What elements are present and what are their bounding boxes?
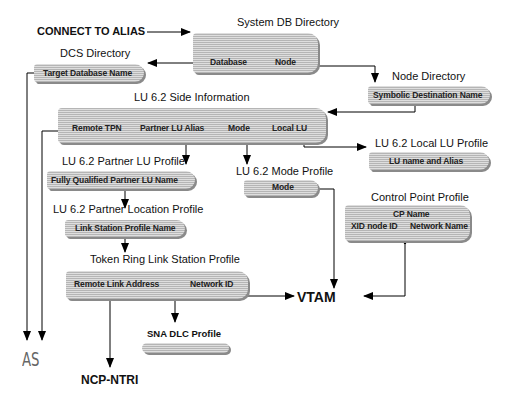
mode-field: Mode (228, 123, 250, 133)
database-field: Database (210, 57, 247, 67)
lu-name-and-alias-field: LU name and Alias (389, 156, 463, 166)
network-id-field: Network ID (190, 279, 233, 289)
system-db-directory-title: System DB Directory (237, 16, 339, 28)
connect-to-alias-label: CONNECT TO ALIAS (37, 25, 145, 37)
lu62-partner-location-profile-title: LU 6.2 Partner Location Profile (53, 203, 203, 215)
remote-tpn-field: Remote TPN (72, 123, 122, 133)
remote-link-address-field: Remote Link Address (74, 279, 159, 289)
lu62-side-information-box: Remote TPN Partner LU Alias Mode Local L… (58, 108, 326, 143)
mode-profile-mode-field: Mode (272, 182, 294, 192)
lu62-mode-profile-box: Mode (244, 180, 318, 196)
sna-dlc-profile-title: SNA DLC Profile (147, 328, 221, 339)
lu62-partner-lu-profile-box: Fully Qualified Partner LU Name (47, 171, 195, 189)
lu62-local-lu-profile-box: LU name and Alias (369, 152, 489, 170)
dcs-directory-box: Target Database Name (34, 64, 144, 82)
partner-lu-alias-field: Partner LU Alias (140, 123, 204, 133)
ncp-ntri-endpoint: NCP-NTRI (81, 373, 138, 387)
cp-name-field: CP Name (393, 209, 429, 219)
node-directory-box: Symbolic Destination Name (368, 86, 490, 104)
target-database-name-field: Target Database Name (43, 68, 132, 78)
node-field: Node (275, 57, 296, 67)
lu62-local-lu-profile-title: LU 6.2 Local LU Profile (375, 137, 488, 149)
dcs-directory-title: DCS Directory (60, 47, 130, 59)
system-db-directory-box: Database Node (193, 33, 318, 73)
xid-node-id-field: XID node ID (351, 221, 398, 231)
lu62-side-information-title: LU 6.2 Side Information (134, 91, 250, 103)
lu62-partner-lu-profile-title: LU 6.2 Partner LU Profile (62, 155, 185, 167)
lu62-partner-location-profile-box: Link Station Profile Name (65, 220, 185, 237)
link-station-profile-name-field: Link Station Profile Name (75, 223, 175, 233)
token-ring-link-station-profile-box: Remote Link Address Network ID (66, 271, 248, 299)
control-point-profile-title: Control Point Profile (371, 191, 469, 203)
fully-qualified-partner-lu-name-field: Fully Qualified Partner LU Name (51, 175, 178, 185)
configuration-flow-diagram: CONNECT TO ALIAS System DB Directory Dat… (0, 0, 516, 412)
local-lu-field: Local LU (272, 123, 307, 133)
vtam-endpoint: VTAM (297, 289, 336, 305)
symbolic-destination-name-field: Symbolic Destination Name (373, 90, 482, 100)
network-name-field: Network Name (410, 221, 468, 231)
node-directory-title: Node Directory (392, 70, 465, 82)
as-endpoint: AS (22, 348, 40, 370)
sna-dlc-profile-box (142, 343, 229, 353)
token-ring-link-station-profile-title: Token Ring Link Station Profile (90, 253, 240, 265)
control-point-profile-box: CP Name XID node ID Network Name (345, 205, 470, 241)
lu62-mode-profile-title: LU 6.2 Mode Profile (236, 165, 333, 177)
